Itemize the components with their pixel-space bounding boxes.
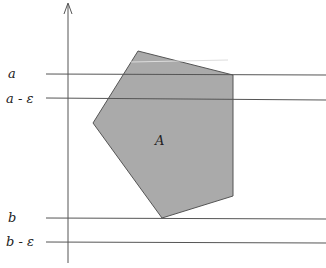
line-a <box>46 74 326 75</box>
diagram-canvas: a a - ε b b - ε A <box>0 0 326 268</box>
label-region-a: A <box>154 133 164 148</box>
label-b: b <box>8 210 16 225</box>
label-b-minus-eps: b - ε <box>6 234 34 249</box>
line-b <box>46 218 326 219</box>
line-b-minus-eps <box>46 242 326 243</box>
label-a: a <box>8 66 16 81</box>
label-a-minus-eps: a - ε <box>6 91 33 106</box>
